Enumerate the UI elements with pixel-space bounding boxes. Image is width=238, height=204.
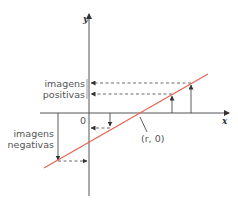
x-axis-label: x — [221, 116, 228, 126]
positive-images-label-line2: positivas — [43, 89, 85, 100]
negative-images-label-line1: imagens — [13, 128, 54, 139]
root-point-label: (r, 0) — [141, 133, 164, 144]
negative-images-label-line2: negativas — [8, 139, 55, 150]
y-axis-label: y — [82, 14, 89, 24]
origin-label: 0 — [80, 115, 86, 126]
root-leader-line — [140, 117, 147, 132]
linear-function-diagram: y x 0 imagens positivas imagens negativa… — [0, 0, 238, 204]
positive-images-label-line1: imagens — [44, 78, 85, 89]
